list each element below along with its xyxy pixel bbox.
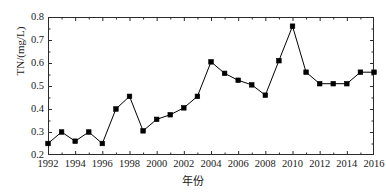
x-axis-title: 年份 (0, 172, 386, 188)
plot-area (48, 17, 374, 155)
x-tick-label: 2016 (352, 158, 386, 169)
data-series-tn (48, 17, 374, 155)
line-chart: TN/(mg/L) 0.20.30.40.50.60.70.8 19921994… (0, 0, 386, 194)
